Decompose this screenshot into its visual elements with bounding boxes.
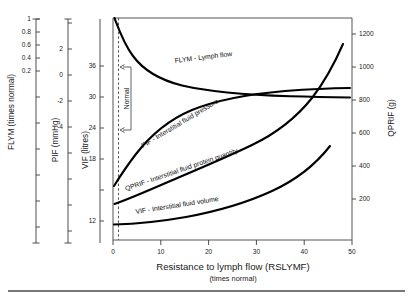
x-tick-label-40: 40 (301, 248, 309, 255)
pif-tick-label-3: 0 (59, 71, 63, 78)
series-curves (114, 18, 350, 225)
qprif-tick-label-2: 400 (359, 162, 370, 169)
axis-flym: 1 0.8 0.6 0.4 0.2 FLYM (times normal) (7, 15, 40, 243)
pif-ticks (68, 23, 72, 231)
qprif-tick-label-4: 800 (359, 96, 370, 103)
axis-vif: 36 30 24 18 12 VIF (litres) (81, 19, 104, 243)
x-ticks (113, 240, 352, 245)
flym-axis-title: FLYM (times normal) (7, 74, 16, 150)
x-tick-label-50: 50 (348, 248, 356, 255)
multi-axis-line-chart: 1 0.8 0.6 0.4 0.2 FLYM (times normal) 2 … (0, 0, 413, 297)
x-tick-label-20: 20 (205, 248, 213, 255)
pif-tick-label-2: -2 (57, 97, 63, 104)
curve-label-flym: FLYM - Lymph flow (174, 50, 232, 65)
flym-tick-label-3: 0.6 (22, 41, 31, 48)
flym-tick-label-5: 1 (27, 15, 31, 22)
curve-label-qprif: QPRIF - Interstitial fluid protein quant… (124, 147, 239, 193)
qprif-tick-label-6: 1200 (359, 30, 374, 37)
axis-qprif: 1200 1000 800 600 400 200 QPRIF (g) (352, 30, 396, 202)
curve-label-pif: PIF - Interstitial fluid pressure (140, 97, 220, 149)
x-tick-label-0: 0 (111, 248, 115, 255)
vif-axis-title: VIF (litres) (81, 131, 90, 169)
pif-axis-title: PIF (mmHg) (51, 117, 60, 162)
series-inline-labels: FLYM - Lymph flow PIF - Interstitial flu… (124, 50, 239, 215)
figure-container: 1 0.8 0.6 0.4 0.2 FLYM (times normal) 2 … (0, 0, 413, 297)
qprif-ticks (352, 34, 356, 199)
vif-ticks (100, 66, 104, 221)
qprif-axis-title: QPRIF (g) (387, 99, 396, 137)
flym-tick-label-1: 0.2 (22, 67, 31, 74)
normal-annotation-label: Normal (123, 87, 130, 109)
qprif-tick-label-3: 600 (359, 129, 370, 136)
qprif-tick-label-5: 1000 (359, 63, 374, 70)
flym-tick-label-2: 0.4 (22, 54, 31, 61)
qprif-tick-label-1: 200 (359, 195, 370, 202)
vif-tick-label-1: 12 (89, 217, 97, 224)
x-tick-label-30: 30 (253, 248, 261, 255)
curve-flym (115, 18, 351, 98)
x-axis-title: Resistance to lymph flow (RSLYMF) (156, 261, 309, 272)
axis-x: 0 10 20 30 40 50 Resistance to lymph flo… (111, 240, 356, 283)
x-tick-label-10: 10 (157, 248, 165, 255)
x-axis-subtitle: (times normal) (209, 274, 256, 283)
flym-ticks (36, 19, 40, 227)
vif-tick-label-4: 30 (89, 93, 97, 100)
vif-tick-label-5: 36 (89, 62, 97, 69)
flym-tick-label-4: 0.8 (22, 28, 31, 35)
axis-pif: 2 0 -2 -4 PIF (mmHg) (51, 19, 72, 243)
pif-tick-label-4: 2 (59, 45, 63, 52)
vif-tick-label-3: 24 (89, 124, 97, 131)
